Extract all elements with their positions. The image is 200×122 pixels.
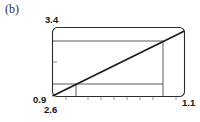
figure-panel: (b) 3.4 0.9 2.6 1.1 bbox=[0, 0, 200, 122]
plot-area bbox=[0, 0, 200, 122]
